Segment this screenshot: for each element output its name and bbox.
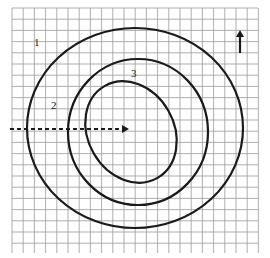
contour-diagram: 123 xyxy=(0,0,270,258)
contour-label-1: 1 xyxy=(34,36,40,48)
grid-lines xyxy=(12,8,258,253)
contour-labels: 123 xyxy=(34,36,137,111)
contour-label-2: 2 xyxy=(51,99,57,111)
contour-label-3: 3 xyxy=(131,67,137,79)
contour-inner xyxy=(67,65,194,200)
